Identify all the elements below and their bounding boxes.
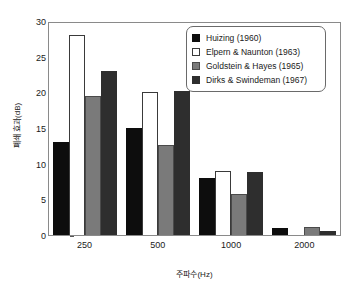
y-tick-label: 10 bbox=[22, 161, 46, 170]
x-axis-title: 주파수(Hz) bbox=[48, 268, 341, 279]
y-tick-label: 25 bbox=[22, 54, 46, 63]
legend-swatch-icon bbox=[192, 62, 200, 70]
bar bbox=[272, 228, 288, 235]
bar bbox=[126, 128, 142, 235]
y-tick-label: 30 bbox=[22, 18, 46, 27]
bar bbox=[85, 96, 101, 235]
x-axis-tick-labels: 25050010002000 bbox=[48, 240, 341, 250]
y-tick-label: 0 bbox=[22, 232, 46, 241]
bar bbox=[320, 231, 336, 235]
legend-label: Goldstein & Hayes (1965) bbox=[206, 61, 303, 71]
legend-swatch-icon bbox=[192, 48, 200, 56]
legend-item: Dirks & Swindeman (1967) bbox=[192, 73, 320, 87]
legend-item: Goldstein & Hayes (1965) bbox=[192, 59, 320, 73]
bar-group bbox=[49, 23, 122, 235]
legend-item: Elpern & Naunton (1963) bbox=[192, 45, 320, 59]
legend-item: Huizing (1960) bbox=[192, 31, 320, 45]
y-tick-label: 5 bbox=[22, 196, 46, 205]
bar-chart-figure: 폐쇄 효과(dB) 051015202530 25050010002000 주파… bbox=[0, 0, 351, 293]
bar bbox=[101, 71, 117, 235]
bar bbox=[304, 227, 320, 235]
x-tick-label: 500 bbox=[121, 240, 194, 250]
x-tick-label: 250 bbox=[48, 240, 121, 250]
x-tick-label: 1000 bbox=[195, 240, 268, 250]
bar bbox=[69, 35, 85, 235]
y-tick-label: 15 bbox=[22, 125, 46, 134]
bar bbox=[53, 142, 69, 235]
legend-swatch-icon bbox=[192, 34, 200, 42]
bar-group bbox=[122, 23, 195, 235]
x-tick-label: 2000 bbox=[268, 240, 341, 250]
y-tick-mark bbox=[70, 236, 74, 237]
bar bbox=[231, 194, 247, 235]
bar bbox=[215, 171, 231, 235]
y-axis-title: 폐쇄 효과(dB) bbox=[11, 76, 22, 176]
y-tick-label: 20 bbox=[22, 89, 46, 98]
bar bbox=[158, 145, 174, 235]
legend-label: Dirks & Swindeman (1967) bbox=[206, 75, 307, 85]
bar bbox=[174, 91, 190, 235]
chart-legend: Huizing (1960)Elpern & Naunton (1963)Gol… bbox=[186, 26, 326, 92]
legend-label: Huizing (1960) bbox=[206, 33, 261, 43]
bar bbox=[247, 172, 263, 235]
bar bbox=[199, 178, 215, 235]
y-axis-tick-labels: 051015202530 bbox=[22, 22, 46, 236]
legend-label: Elpern & Naunton (1963) bbox=[206, 47, 300, 57]
bar bbox=[142, 92, 158, 235]
legend-swatch-icon bbox=[192, 76, 200, 84]
